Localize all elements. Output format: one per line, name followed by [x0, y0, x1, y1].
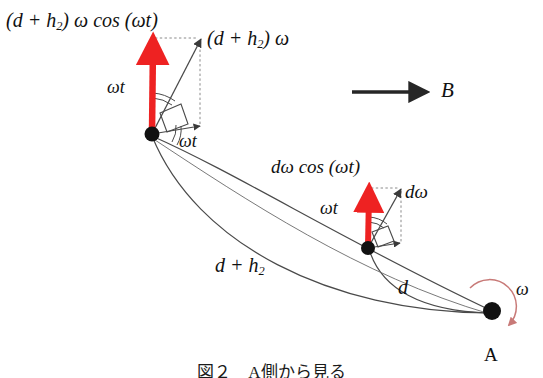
label-inner-velocity: dω [405, 182, 428, 201]
physics-figure: (d + h2) ω cos (ωt) (d + h2) ω ωt ωt B d… [0, 0, 543, 378]
outer-vector-assembly [145, 38, 202, 145]
outer-vertical-component-arrow [152, 45, 153, 133]
label-radius-outer: d + h2 [215, 255, 265, 278]
inner-vertical-component-arrow [368, 194, 369, 247]
inner-velocity-vector [368, 189, 401, 248]
figure-caption: 図２ A側から見る [0, 358, 543, 378]
outer-mass-dot [145, 127, 160, 142]
label-angle-upper-left: ωt [107, 78, 125, 96]
label-radius-inner: d [398, 277, 408, 297]
outer-velocity-vector [152, 39, 201, 134]
arc-inner-radius [370, 252, 489, 313]
outer-right-angle-marker [160, 104, 188, 132]
label-inner-vertical-component: dω cos (ωt) [271, 157, 360, 176]
label-angle-lower-left: ωt [179, 132, 197, 150]
label-angle-inner: ωt [320, 199, 338, 217]
label-field-direction: B [441, 80, 454, 101]
label-angular-velocity: ω [516, 280, 529, 298]
label-outer-velocity: (d + h2) ω [207, 28, 289, 51]
figure-canvas [0, 0, 543, 378]
inner-vector-assembly [361, 188, 401, 255]
inner-mass-dot [361, 241, 375, 255]
outer-angle-arc-lower [172, 125, 176, 142]
label-outer-vertical-component: (d + h2) ω cos (ωt) [6, 10, 158, 33]
pivot-dot-A [483, 302, 501, 320]
